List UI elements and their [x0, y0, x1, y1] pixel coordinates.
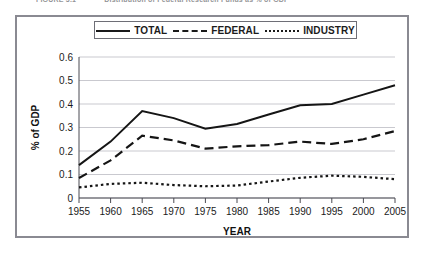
x-tick-label: 2005	[384, 206, 407, 217]
y-axis-title: % of GDP	[30, 104, 41, 150]
series-line-industry	[79, 176, 395, 188]
legend-label-federal: FEDERAL	[211, 25, 259, 36]
x-tick-label: 1965	[131, 206, 154, 217]
x-tick-label: 1990	[289, 206, 312, 217]
legend-label-industry: INDUSTRY	[303, 25, 355, 36]
y-tick-label: 0.2	[59, 146, 73, 157]
chart-legend: TOTAL FEDERAL INDUSTRY	[94, 21, 357, 39]
y-tick-label: 0.5	[59, 75, 73, 86]
y-axis-tick-labels: 00.10.20.30.40.50.6	[59, 52, 73, 204]
y-tick-label: 0.1	[59, 169, 73, 180]
x-axis-title: YEAR	[223, 226, 252, 237]
legend-item-total[interactable]: TOTAL	[93, 25, 170, 36]
series-line-federal	[79, 131, 395, 178]
legend-line-dotted-icon	[265, 26, 299, 35]
x-tick-label: 2000	[352, 206, 375, 217]
plot-area: 00.10.20.30.40.50.6 19551960196519701975…	[17, 17, 411, 240]
legend-item-industry[interactable]: INDUSTRY	[262, 25, 358, 36]
chart-svg: 00.10.20.30.40.50.6 19551960196519701975…	[17, 17, 411, 240]
chart-frame: 00.10.20.30.40.50.6 19551960196519701975…	[15, 15, 409, 238]
figure-caption: FIGURE 3.1 Distribution of Federal Resea…	[0, 0, 424, 7]
x-tick-label: 1975	[194, 206, 217, 217]
y-tick-label: 0	[67, 193, 73, 204]
x-tick-label: 1995	[321, 206, 344, 217]
y-tick-label: 0.4	[59, 99, 73, 110]
series-line-total	[79, 85, 395, 165]
figure-caption-label: FIGURE 3.1	[36, 0, 76, 3]
x-axis-tick-labels: 1955196019651970197519801985199019952000…	[68, 206, 407, 217]
x-axis-tick-marks	[79, 198, 395, 203]
data-series	[79, 85, 395, 187]
figure-caption-text: Distribution of Federal Research Funds a…	[104, 0, 289, 3]
x-tick-label: 1960	[99, 206, 122, 217]
x-tick-label: 1970	[163, 206, 186, 217]
y-tick-label: 0.6	[59, 52, 73, 63]
x-tick-label: 1980	[226, 206, 249, 217]
x-tick-label: 1985	[257, 206, 280, 217]
legend-item-federal[interactable]: FEDERAL	[170, 25, 262, 36]
legend-line-dashed-icon	[173, 26, 207, 35]
legend-label-total: TOTAL	[134, 25, 167, 36]
legend-line-solid-icon	[96, 26, 130, 35]
y-tick-label: 0.3	[59, 122, 73, 133]
x-tick-label: 1955	[68, 206, 91, 217]
